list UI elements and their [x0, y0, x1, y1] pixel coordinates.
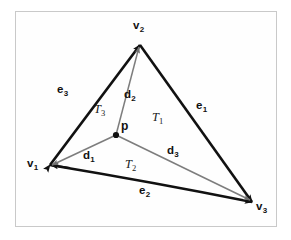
spoke-label-d2: d2: [124, 89, 135, 101]
edge-label-e3: e3: [57, 84, 68, 96]
point-p-marker: [113, 132, 119, 138]
edge-e2: [50, 165, 252, 202]
spoke-label-d1: d1: [83, 150, 94, 162]
edge-label-e2: e2: [139, 185, 150, 197]
outer-edges: [50, 45, 252, 202]
region-label-t1: T1: [152, 111, 163, 124]
edge-e2-arrow-v1: [51, 165, 70, 168]
region-label-t2: T2: [125, 158, 136, 171]
region-label-t3: T3: [94, 103, 105, 116]
triangle-diagram: [0, 0, 291, 240]
edge-label-e1: e1: [196, 100, 207, 112]
vertex-label-v1: v1: [27, 158, 38, 170]
spoke-label-d3: d3: [167, 145, 178, 157]
vertex-label-v2: v2: [133, 20, 144, 32]
vertex-label-v3: v3: [256, 201, 267, 213]
point-label-p: p: [121, 120, 128, 132]
figure-canvas: v1 v2 v3 p e1 e2 e3 d1 d2 d3 T1 T2 T3: [0, 0, 291, 240]
